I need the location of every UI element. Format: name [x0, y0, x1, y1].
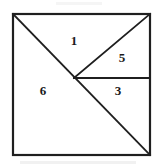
region-label-5: 5 — [119, 50, 126, 65]
scan-artifact-bottom — [20, 161, 136, 164]
region-label-3: 3 — [115, 83, 122, 98]
figure-container: 1 5 3 6 — [0, 0, 156, 168]
junction-to-top-right-line — [74, 14, 150, 78]
region-label-6: 6 — [40, 83, 47, 98]
region-label-1: 1 — [71, 33, 78, 48]
tangram-square-diagram: 1 5 3 6 — [0, 0, 156, 168]
main-diagonal-line — [13, 14, 150, 155]
